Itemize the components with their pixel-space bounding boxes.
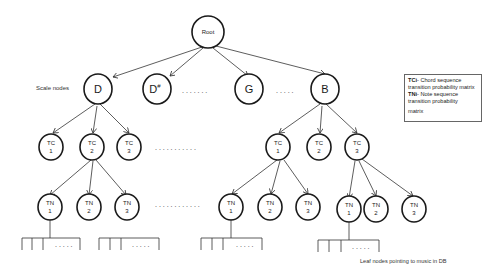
- tn-node-1: TN1: [38, 194, 62, 220]
- edge-tc2-tn1: [50, 160, 91, 195]
- scale-node-label: B: [321, 83, 328, 95]
- scale-nodes-label: Scale nodes: [36, 85, 69, 91]
- legend-tn: TNi- Note sequence transition probabilit…: [408, 91, 478, 105]
- tn-node-prefix: TN: [123, 200, 131, 206]
- tn-node-2: TN2: [258, 194, 282, 220]
- edge-d-tc1: [53, 104, 95, 133]
- edge-b-tc2: [320, 106, 322, 133]
- leaf-group-3: . . . . .: [201, 219, 262, 250]
- tn-node-prefix: TN: [410, 202, 418, 208]
- tn-node-1: TN1: [219, 194, 243, 220]
- tc-node-3: TC3: [345, 134, 369, 160]
- tn-node-2: TN2: [364, 196, 388, 222]
- leaf-caption: Leaf nodes pointing to music in DB: [360, 258, 446, 264]
- tc-node-prefix: TC: [353, 140, 362, 146]
- legend-tc: TCi- Chord sequence transition probabili…: [408, 77, 478, 91]
- tn-ellipsis: . . . . . . . . . . . .: [155, 201, 200, 208]
- edge-root-d: [113, 47, 202, 77]
- scale-ellipsis-2: . . . . .: [276, 87, 294, 94]
- scale-ellipsis-1: . . . . . . .: [182, 87, 207, 94]
- tc-node-prefix: TC: [125, 140, 134, 146]
- edge-tc3r-tn3: [362, 159, 413, 196]
- tn-node-3: TN3: [402, 196, 426, 222]
- tc-node-1: TC1: [39, 134, 63, 160]
- edge-tc1r-tn1: [232, 160, 277, 194]
- edge-d-tc3: [100, 104, 129, 133]
- tc-group-right: TC1TC2TC3: [266, 134, 369, 160]
- edge-b-tc1: [279, 104, 320, 133]
- legend-tn-key: TNi: [408, 91, 417, 97]
- edge-tc3r-tn1: [349, 161, 355, 198]
- edge-tc2-tn3: [96, 160, 126, 195]
- leaf-ellipsis: . . . . .: [55, 241, 73, 248]
- tc-node-prefix: TC: [274, 140, 283, 146]
- edge-root-b: [216, 46, 325, 74]
- legend-tc-key: TCi: [408, 77, 417, 83]
- scale-node-label: D: [94, 83, 102, 95]
- tc-group-left: TC1TC2TC3: [39, 134, 141, 160]
- edge-tc1r-tn3: [284, 160, 308, 194]
- edge-tc2-tn2: [89, 161, 93, 195]
- tn-group-right: TN1TN2TN3: [337, 196, 426, 222]
- root-edges: [113, 46, 325, 77]
- tc-node-2: TC2: [307, 134, 331, 160]
- tc-node-prefix: TC: [47, 140, 56, 146]
- leaf-ellipsis: . . . . .: [132, 241, 150, 248]
- scale-node-dsharp: D#: [143, 74, 171, 104]
- scale-node-g: G: [235, 74, 263, 104]
- tn-node-prefix: TN: [85, 200, 93, 206]
- leaf-group-1: . . . . .: [22, 219, 80, 250]
- root-label: Root: [202, 29, 215, 35]
- leaf-group-2: . . . . .: [99, 238, 159, 250]
- legend-tc-text: - Chord sequence transition probability …: [408, 77, 475, 90]
- tc-node-prefix: TC: [88, 140, 97, 146]
- tn-node-2: TN2: [77, 194, 101, 220]
- tn-node-1: TN1: [337, 196, 361, 222]
- tn-node-prefix: TN: [304, 200, 312, 206]
- tc-node-prefix: TC: [315, 140, 324, 146]
- tc-node-2: TC2: [80, 134, 104, 160]
- legend-tn-text-2: matrix: [408, 108, 478, 115]
- scale-node-label: G: [245, 83, 254, 95]
- tc-node-1: TC1: [266, 134, 290, 160]
- leaf-ellipsis: . . . . .: [352, 243, 370, 250]
- tn-node-prefix: TN: [345, 202, 353, 208]
- edge-tc1r-tn2: [271, 161, 280, 194]
- tn-node-prefix: TN: [227, 200, 235, 206]
- tn-node-prefix: TN: [266, 200, 274, 206]
- edge-d-tc2: [93, 106, 97, 133]
- legend-box: TCi- Chord sequence transition probabili…: [404, 74, 482, 122]
- tn-group-mid: TN1TN2TN3: [219, 194, 320, 220]
- leaf-ellipsis: . . . . .: [236, 241, 254, 248]
- scale-node-d: D: [84, 74, 112, 104]
- edge-tc3r-tn2: [359, 161, 376, 196]
- root-node: Root: [192, 16, 224, 48]
- tn-node-3: TN3: [115, 194, 139, 220]
- tn-group-left: TN1TN2TN3: [38, 194, 139, 220]
- edge-root-g: [213, 48, 248, 76]
- tn-node-prefix: TN: [46, 200, 54, 206]
- tc-node-3: TC3: [117, 134, 141, 160]
- tc-ellipsis: . . . . . . . . . . .: [155, 144, 196, 151]
- tn-node-3: TN3: [296, 194, 320, 220]
- edge-b-tc3: [326, 104, 357, 133]
- tn-node-prefix: TN: [372, 202, 380, 208]
- scale-node-b: B: [311, 74, 339, 104]
- leaf-group-4: . . . . .: [318, 222, 379, 252]
